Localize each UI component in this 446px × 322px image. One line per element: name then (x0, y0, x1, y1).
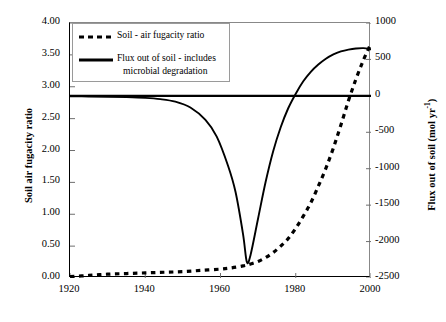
x-tick: 1960 (197, 283, 243, 294)
x-tick: 1980 (272, 283, 318, 294)
y-tick-right: -500 (375, 124, 419, 135)
x-tick: 2000 (347, 283, 393, 294)
y-tick-left: 4.00 (20, 15, 60, 26)
y-tick-left: 2.00 (20, 143, 60, 154)
legend-key-solid (79, 58, 113, 62)
x-tick: 1940 (121, 283, 167, 294)
y-axis-right-title-end: ) (426, 99, 437, 103)
y-tick-left: 3.00 (20, 79, 60, 90)
legend-label-flux-line2: microbial degradation (123, 65, 207, 76)
y-tick-left: 1.00 (20, 206, 60, 217)
y-tick-right: -2000 (375, 234, 419, 245)
y-axis-right-title: Flux out of soil (mol yr-1) (423, 55, 437, 255)
legend-label-fugacity: Soil - air fugacity ratio (117, 29, 204, 40)
x-tick: 1920 (46, 283, 92, 294)
y-tick-left: 0.50 (20, 238, 60, 249)
chart-figure: Soil air fugacity ratio Flux out of soil… (0, 0, 446, 322)
y-axis-right-title-superscript: -1 (423, 102, 432, 108)
y-tick-left: 0.00 (20, 270, 60, 281)
y-tick-right: -2500 (375, 270, 419, 281)
y-tick-left: 2.50 (20, 111, 60, 122)
y-tick-left: 1.50 (20, 174, 60, 185)
y-tick-right: -1000 (375, 161, 419, 172)
y-tick-right: 0 (375, 88, 419, 99)
y-tick-right: -1500 (375, 197, 419, 208)
chart-legend: Soil - air fugacity ratio Flux out of so… (72, 23, 230, 82)
y-axis-right-title-main: Flux out of soil (mol yr (426, 108, 437, 210)
y-tick-left: 3.50 (20, 47, 60, 58)
legend-label-flux-line1: Flux out of soil - includes (117, 52, 216, 63)
y-tick-right: 500 (375, 51, 419, 62)
y-tick-right: 1000 (375, 15, 419, 26)
legend-key-dashed (79, 35, 113, 39)
